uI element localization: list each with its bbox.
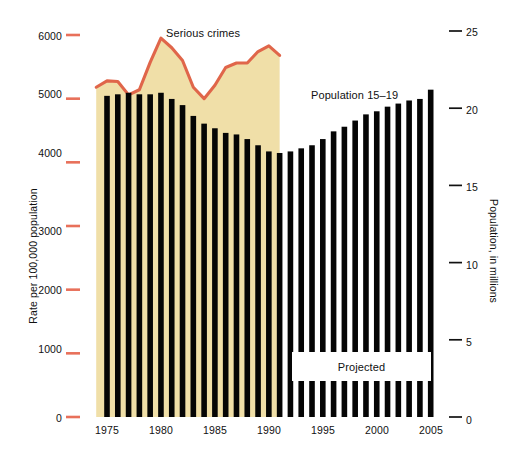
population-bar bbox=[277, 153, 283, 417]
x-tick-label-1990: 1990 bbox=[247, 424, 291, 436]
population-bar bbox=[223, 133, 229, 417]
population-bar bbox=[244, 139, 250, 417]
y-axis-left-title: Rate per 100,000 population bbox=[27, 161, 39, 351]
population-bar bbox=[266, 151, 272, 417]
chart-plot-area bbox=[0, 0, 509, 455]
population-bar bbox=[115, 94, 121, 417]
x-tick-label-1975: 1975 bbox=[85, 424, 129, 436]
y-axis-right-title: Population, in millions bbox=[488, 156, 500, 346]
projected-label: Projected bbox=[338, 361, 385, 373]
y-left-tick-label-0: 0 bbox=[24, 412, 62, 424]
y-left-tick-label-5000: 5000 bbox=[24, 88, 62, 100]
series-label-population: Population 15–19 bbox=[311, 89, 398, 101]
y-left-tick-label-6000: 6000 bbox=[24, 30, 62, 42]
y-left-tick-label-4000: 4000 bbox=[24, 147, 62, 159]
population-bar bbox=[180, 105, 186, 417]
crime-area-group bbox=[96, 38, 279, 417]
population-bar bbox=[255, 145, 261, 417]
population-bar bbox=[169, 99, 175, 417]
population-bar bbox=[191, 116, 197, 417]
population-bar bbox=[147, 94, 153, 417]
projected-callout-box: Projected bbox=[292, 352, 431, 381]
x-tick-label-1985: 1985 bbox=[193, 424, 237, 436]
series-label-serious-crimes: Serious crimes bbox=[166, 27, 240, 39]
y-right-tick-label-20: 20 bbox=[466, 104, 492, 116]
x-tick-label-2005: 2005 bbox=[409, 424, 453, 436]
population-bar bbox=[104, 96, 110, 417]
right-axis-ticks-group bbox=[449, 31, 462, 417]
left-axis-ticks-group bbox=[66, 35, 80, 417]
population-bar bbox=[137, 94, 143, 417]
population-bar bbox=[212, 128, 218, 417]
chart-figure: 6000 5000 4000 3000 2000 1000 0 25 20 15… bbox=[0, 0, 509, 455]
crime-area-fill bbox=[96, 38, 279, 417]
population-bar bbox=[234, 134, 240, 417]
y-right-tick-label-0: 0 bbox=[466, 414, 492, 426]
population-bar bbox=[201, 124, 207, 417]
population-bar bbox=[158, 93, 164, 417]
x-tick-label-1995: 1995 bbox=[301, 424, 345, 436]
x-tick-label-1980: 1980 bbox=[139, 424, 183, 436]
population-bar bbox=[126, 93, 132, 417]
y-right-tick-label-25: 25 bbox=[466, 26, 492, 38]
x-tick-label-2000: 2000 bbox=[355, 424, 399, 436]
